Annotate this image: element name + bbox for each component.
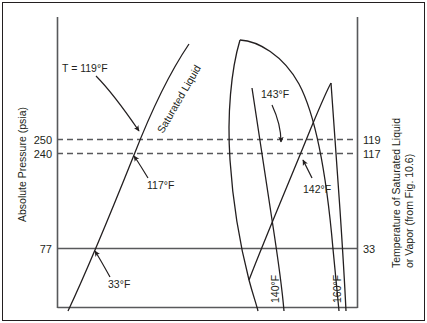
- left-axis-title: Absolute Pressure (psia): [16, 107, 28, 222]
- figure-container: Absolute Pressure (psia) 250 240 77 119 …: [0, 0, 427, 323]
- annotation-t119: T = 119°F: [62, 62, 108, 74]
- annotation-t142: 142°F: [303, 183, 331, 195]
- left-tick-77: 77: [40, 243, 52, 255]
- left-tick-250: 250: [34, 134, 52, 146]
- right-tick-33: 33: [363, 243, 375, 255]
- right-tick-117: 117: [363, 148, 381, 160]
- right-axis-title-line2: or Vapor (from Fig. 10.6): [403, 154, 415, 268]
- outer-border: [3, 3, 425, 321]
- right-tick-119: 119: [363, 134, 381, 146]
- curve-label-160F: 160°F: [331, 275, 343, 303]
- annotation-t33: 33°F: [108, 278, 130, 290]
- curve-label-140F: 140°F: [269, 275, 281, 303]
- right-axis-title-line1: Temperature of Saturated Liquid: [390, 118, 402, 268]
- left-tick-240: 240: [34, 148, 52, 160]
- annotation-t117: 117°F: [147, 179, 174, 191]
- annotation-t143: 143°F: [261, 88, 289, 100]
